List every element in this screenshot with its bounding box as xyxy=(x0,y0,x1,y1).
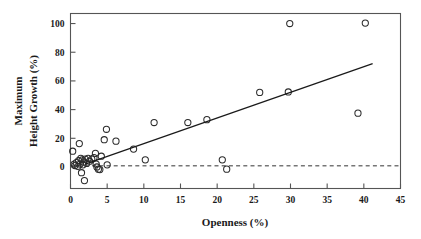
data-point xyxy=(76,141,82,147)
data-point xyxy=(219,157,225,163)
data-point xyxy=(224,166,230,172)
regression-line xyxy=(85,64,372,164)
x-tick-label: 25 xyxy=(249,195,259,205)
x-tick-label: 30 xyxy=(286,195,296,205)
x-axis-title: Openness (%) xyxy=(202,216,269,229)
x-tick-label: 40 xyxy=(359,195,369,205)
y-tick-label: 0 xyxy=(60,162,65,172)
x-tick-label: 35 xyxy=(322,195,332,205)
data-point xyxy=(142,157,148,163)
y-axis-ticks xyxy=(71,24,76,167)
chart-canvas: 051015202530354045 020406080100 Openness… xyxy=(0,0,421,239)
data-point xyxy=(355,110,361,116)
data-point xyxy=(103,126,109,132)
x-tick-label: 20 xyxy=(212,195,222,205)
data-point xyxy=(104,162,110,168)
y-tick-label: 80 xyxy=(55,48,65,58)
data-point xyxy=(287,20,293,26)
data-point xyxy=(257,89,263,95)
x-axis-tick-labels: 051015202530354045 xyxy=(68,195,405,205)
data-point xyxy=(78,170,84,176)
x-axis-ticks xyxy=(71,184,401,189)
data-point xyxy=(362,20,368,26)
y-tick-label: 60 xyxy=(55,76,65,86)
x-tick-label: 10 xyxy=(139,195,149,205)
scatter-plot-figure: 051015202530354045 020406080100 Openness… xyxy=(0,0,421,239)
data-point xyxy=(151,119,157,125)
x-tick-label: 5 xyxy=(105,195,110,205)
y-tick-label: 100 xyxy=(50,19,65,29)
x-tick-label: 45 xyxy=(396,195,406,205)
data-point xyxy=(81,178,87,184)
data-point xyxy=(101,137,107,143)
data-point xyxy=(113,138,119,144)
x-tick-label: 15 xyxy=(176,195,186,205)
y-tick-label: 40 xyxy=(55,105,65,115)
y-axis-title-line1: Maximum xyxy=(12,77,24,126)
y-axis-tick-labels: 020406080100 xyxy=(50,19,65,172)
data-points-layer xyxy=(70,20,369,184)
y-axis-title-line2: Height Growth (%) xyxy=(27,55,40,147)
x-tick-label: 0 xyxy=(68,195,73,205)
data-point xyxy=(185,119,191,125)
plot-frame xyxy=(71,14,401,189)
y-tick-label: 20 xyxy=(55,134,65,144)
